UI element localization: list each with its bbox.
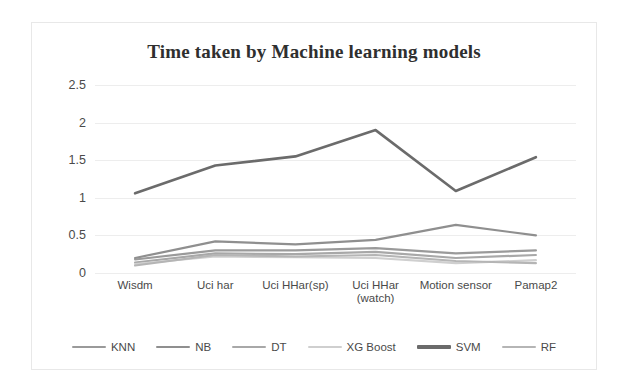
legend-label: KNN — [111, 341, 135, 353]
series-line-svm — [135, 130, 536, 193]
gridline — [95, 273, 576, 274]
chart-legend: KNNNBDTXG BoostSVMRF — [32, 341, 596, 353]
legend-swatch — [156, 346, 190, 349]
chart-card: Time taken by Machine learning models 00… — [31, 22, 597, 370]
series-lines — [95, 85, 576, 273]
legend-label: SVM — [456, 341, 481, 353]
legend-swatch — [232, 346, 266, 349]
legend-item-nb[interactable]: NB — [156, 341, 211, 353]
legend-item-svm[interactable]: SVM — [417, 341, 481, 353]
x-axis-tick-label: Uci har — [197, 279, 233, 292]
legend-swatch — [417, 345, 451, 348]
legend-label: XG Boost — [347, 341, 396, 353]
y-axis-tick-label: 2.5 — [69, 78, 86, 92]
y-axis-tick-label: 0 — [79, 266, 86, 280]
x-axis: WisdmUci harUci HHar(sp)Uci HHar (watch)… — [95, 279, 576, 319]
x-axis-tick-label: Uci HHar (watch) — [352, 279, 399, 305]
x-axis-tick-label: Pamap2 — [514, 279, 557, 292]
legend-item-xg-boost[interactable]: XG Boost — [308, 341, 396, 353]
legend-swatch — [72, 346, 106, 349]
y-axis-tick-label: 2 — [79, 116, 86, 130]
legend-label: RF — [541, 341, 556, 353]
legend-label: NB — [195, 341, 211, 353]
plot-area: 00.511.522.5 — [95, 85, 576, 273]
y-axis-tick-label: 1.5 — [69, 153, 86, 167]
legend-item-dt[interactable]: DT — [232, 341, 286, 353]
y-axis-tick-label: 1 — [79, 191, 86, 205]
legend-item-rf[interactable]: RF — [502, 341, 556, 353]
chart-title: Time taken by Machine learning models — [32, 41, 596, 63]
y-axis-tick-label: 0.5 — [69, 228, 86, 242]
legend-swatch — [502, 346, 536, 349]
legend-item-knn[interactable]: KNN — [72, 341, 135, 353]
x-axis-tick-label: Motion sensor — [420, 279, 492, 292]
x-axis-tick-label: Wisdm — [118, 279, 153, 292]
legend-label: DT — [271, 341, 286, 353]
x-axis-tick-label: Uci HHar(sp) — [262, 279, 328, 292]
legend-swatch — [308, 346, 342, 349]
